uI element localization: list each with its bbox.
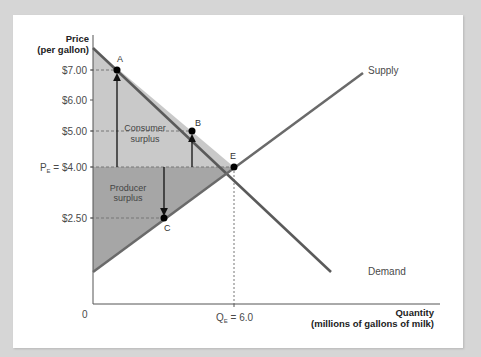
point-A [114, 67, 121, 74]
supply-label: Supply [368, 65, 399, 76]
x-axis-unit: (millions of gallons of milk) [311, 318, 434, 329]
label-A: A [117, 54, 123, 64]
label-E: E [230, 151, 236, 161]
consumer-surplus-label-1: Consumer [124, 123, 166, 133]
label-B: B [195, 118, 201, 128]
point-E [231, 164, 238, 171]
consumer-surplus-area [93, 48, 234, 167]
y-tick-2-5: $2.50 [62, 213, 87, 224]
y-tick-5: $5.00 [62, 126, 87, 137]
point-C [161, 215, 168, 222]
origin-label: 0 [82, 309, 88, 320]
producer-surplus-label-2: surplus [113, 193, 143, 203]
demand-label: Demand [368, 266, 406, 277]
y-axis-title: Price [66, 33, 89, 44]
surplus-chart: A B E C Consumer surplus Producer surplu… [0, 0, 481, 357]
label-C: C [164, 223, 171, 233]
x-tick-qe: QE = 6.0 [216, 312, 254, 324]
y-axis-unit: (per gallon) [37, 44, 89, 55]
point-B [189, 128, 196, 135]
consumer-surplus-label-2: surplus [130, 134, 160, 144]
x-axis-title: Quantity [395, 307, 434, 318]
y-tick-7: $7.00 [62, 65, 87, 76]
y-tick-6: $6.00 [62, 95, 87, 106]
y-tick-pe: PE = $4.00 [40, 162, 88, 174]
producer-surplus-label-1: Producer [110, 183, 147, 193]
